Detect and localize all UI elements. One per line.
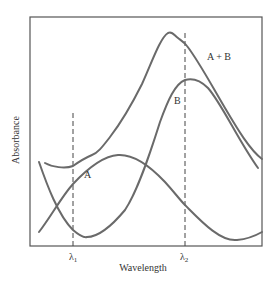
curve-sum-label: A + B	[207, 51, 231, 62]
curve-b	[39, 79, 258, 237]
lambda2-tick-label: λ2	[180, 251, 189, 264]
lambda1-tick-label: λ1	[69, 251, 78, 264]
absorbance-chart: A B A + B λ1 λ2 Wavelength Absorbance	[0, 0, 276, 284]
curve-b-label: B	[174, 95, 181, 106]
curve-a-label: A	[84, 169, 92, 180]
y-axis-label: Absorbance	[10, 116, 21, 164]
x-axis-label: Wavelength	[119, 262, 167, 273]
curve-a	[39, 155, 262, 240]
